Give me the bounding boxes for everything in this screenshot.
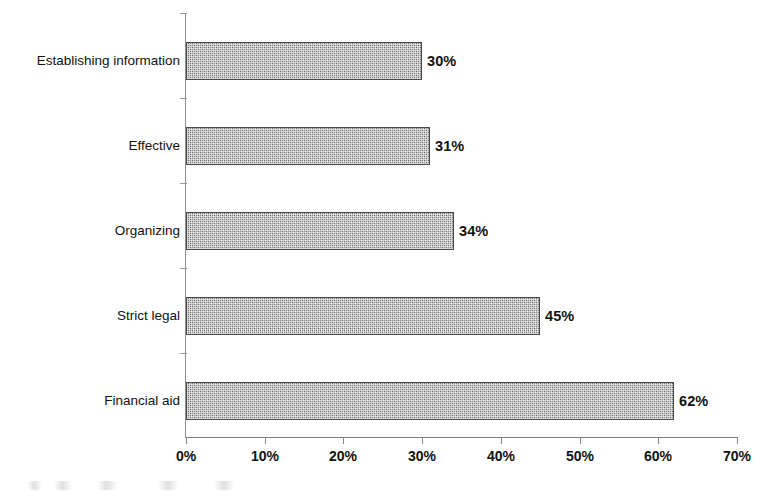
category-tick: [180, 13, 187, 14]
category-label-strict-legal: Strict legal: [0, 297, 180, 335]
bar-organizing: [186, 212, 454, 250]
bar-financial-aid: [186, 382, 674, 420]
value-axis-label-0: 0%: [156, 448, 216, 464]
bar-value-strict-legal: 45%: [545, 297, 574, 335]
bar-effective: [186, 127, 430, 165]
category-tick: [180, 268, 187, 269]
value-tick-20: [343, 438, 344, 444]
category-label-effective: Effective: [0, 127, 180, 165]
bar-strict-legal: [186, 297, 540, 335]
value-tick-30: [422, 438, 423, 444]
category-tick: [180, 98, 187, 99]
bar-establishing-information: [186, 42, 422, 80]
plot-area: 30% 31% 34% 45% 62%: [186, 13, 737, 437]
value-tick-40: [501, 438, 502, 444]
value-axis-label-60: 60%: [628, 448, 688, 464]
bar-value-financial-aid: 62%: [679, 382, 708, 420]
bar-value-organizing: 34%: [459, 212, 488, 250]
value-tick-50: [580, 438, 581, 444]
category-tick: [180, 183, 187, 184]
bar-value-establishing-information: 30%: [427, 42, 456, 80]
value-axis-label-70: 70%: [707, 448, 767, 464]
category-label-financial-aid: Financial aid: [0, 382, 180, 420]
value-tick-0: [186, 438, 187, 444]
value-axis-label-50: 50%: [550, 448, 610, 464]
value-tick-70: [737, 438, 738, 444]
value-tick-10: [265, 438, 266, 444]
value-axis-label-10: 10%: [235, 448, 295, 464]
category-label-organizing: Organizing: [0, 212, 180, 250]
bar-chart: 30% 31% 34% 45% 62% Establishing informa…: [0, 0, 780, 491]
scan-artifact: [28, 481, 328, 490]
value-tick-60: [658, 438, 659, 444]
value-axis-label-40: 40%: [471, 448, 531, 464]
value-axis-label-20: 20%: [313, 448, 373, 464]
value-axis-line: [186, 437, 738, 438]
category-label-establishing-information: Establishing information: [0, 42, 180, 80]
category-tick: [180, 353, 187, 354]
bar-value-effective: 31%: [435, 127, 464, 165]
value-axis-label-30: 30%: [392, 448, 452, 464]
